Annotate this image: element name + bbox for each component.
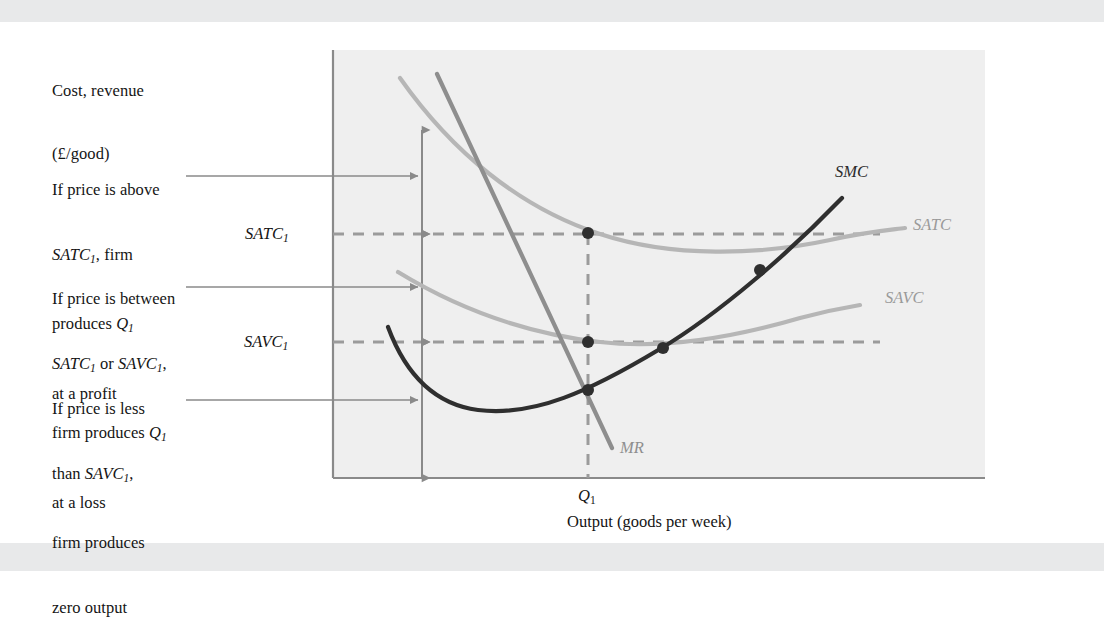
y-tick-label-satc1: SATC1 <box>245 224 289 244</box>
intersection-dot <box>754 264 766 276</box>
annotation-line: zero output <box>52 597 145 619</box>
intersection-dot <box>657 342 669 354</box>
annotation-line: If price is between <box>52 288 175 310</box>
intersection-dot <box>582 336 594 348</box>
intersection-dot <box>582 227 594 239</box>
plot-background <box>333 50 985 478</box>
annotation-line: If price is less <box>52 398 145 420</box>
curve-label-satc: SATC <box>913 215 951 235</box>
x-tick-label-q1: Q1 <box>578 486 596 506</box>
y-axis-title-line1: Cost, revenue <box>52 80 144 101</box>
intersection-dot <box>582 384 594 396</box>
x-axis-title: Output (goods per week) <box>567 512 732 532</box>
curve-label-mr: MR <box>620 438 644 458</box>
annotation-below-savc: If price is less than SAVC1, firm produc… <box>52 355 145 621</box>
y-tick-label-savc1: SAVC1 <box>244 332 288 352</box>
annotation-line: firm produces <box>52 532 145 554</box>
annotation-line: than SAVC1, <box>52 463 145 490</box>
curve-label-savc: SAVC <box>885 288 924 308</box>
annotation-line: If price is above <box>52 179 160 201</box>
curve-label-smc: SMC <box>835 162 868 182</box>
